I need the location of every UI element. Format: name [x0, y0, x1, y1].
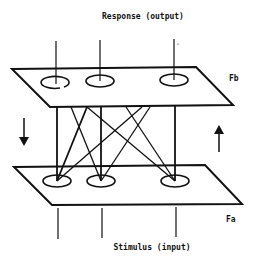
art-network-diagram: Response (output) Fb: [0, 0, 256, 261]
response-label: Response (output): [102, 12, 184, 21]
fb-label: Fb: [229, 74, 239, 83]
stimulus-label: Stimulus (input): [113, 242, 190, 252]
down-arrow-icon: [19, 118, 29, 146]
up-arrow-icon: [214, 125, 224, 152]
input-lines: [58, 207, 176, 239]
fa-label: Fa: [226, 215, 236, 224]
fa-nodes: [43, 175, 189, 187]
